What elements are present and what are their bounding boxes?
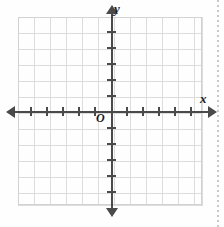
x-axis-right-arrow-icon bbox=[208, 106, 217, 118]
x-axis-tick bbox=[158, 107, 160, 116]
y-axis-line bbox=[111, 12, 113, 210]
y-axis-tick bbox=[107, 159, 116, 161]
y-axis-label: y bbox=[114, 2, 120, 15]
origin-label: O bbox=[96, 112, 105, 125]
x-axis-label: x bbox=[200, 92, 207, 105]
y-axis-tick bbox=[107, 95, 116, 97]
x-axis-tick bbox=[190, 107, 192, 116]
y-axis-tick bbox=[107, 143, 116, 145]
x-axis-left-arrow-icon bbox=[6, 106, 15, 118]
y-axis-tick bbox=[107, 79, 116, 81]
x-axis-tick bbox=[126, 107, 128, 116]
y-axis-tick bbox=[107, 175, 116, 177]
y-axis-tick bbox=[107, 47, 116, 49]
x-axis-tick bbox=[62, 107, 64, 116]
y-axis-tick bbox=[107, 191, 116, 193]
y-axis-tick bbox=[107, 63, 116, 65]
y-axis-down-arrow-icon bbox=[106, 208, 118, 217]
x-axis-tick bbox=[174, 107, 176, 116]
coordinate-plane-figure: y x O bbox=[0, 0, 224, 227]
x-axis-tick bbox=[78, 107, 80, 116]
x-axis-tick bbox=[30, 107, 32, 116]
y-axis-tick bbox=[107, 31, 116, 33]
y-axis-tick bbox=[107, 127, 116, 129]
page-margin-dotted-line bbox=[217, 0, 219, 227]
x-axis-tick bbox=[142, 107, 144, 116]
x-axis-tick bbox=[46, 107, 48, 116]
